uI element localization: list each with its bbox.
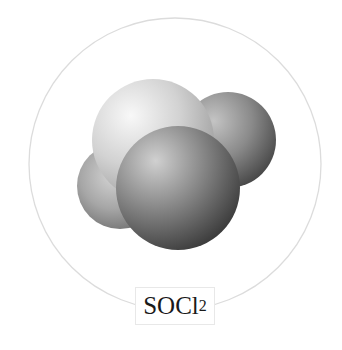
formula-label: SOCl2 xyxy=(135,287,215,325)
space-filling-model xyxy=(77,79,276,250)
formula-main-text: SOCl xyxy=(143,292,199,320)
atom-chlorine-front xyxy=(116,126,240,250)
